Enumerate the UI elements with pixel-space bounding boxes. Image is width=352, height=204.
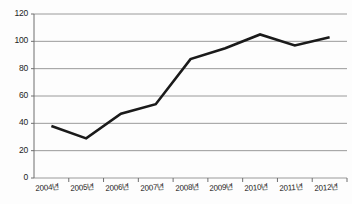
gridlines [31, 14, 347, 178]
data-series-line [51, 35, 329, 139]
y-tick-label: 100 [4, 36, 28, 45]
x-tick-label: 2005년 [70, 182, 94, 193]
x-tick-marks [69, 178, 347, 182]
y-tick-label: 120 [4, 9, 28, 18]
y-tick-label: 40 [4, 118, 28, 127]
line-chart: 020406080100120 2004년2005년2006년2007년2008… [0, 0, 352, 204]
y-tick-label: 80 [4, 64, 28, 73]
x-tick-label: 2004년 [35, 182, 59, 193]
x-tick-label: 2012년 [314, 182, 338, 193]
chart-canvas [0, 0, 352, 204]
x-tick-label: 2009년 [209, 182, 233, 193]
x-tick-label: 2006년 [105, 182, 129, 193]
x-tick-label: 2008년 [175, 182, 199, 193]
x-tick-label: 2007년 [140, 182, 164, 193]
x-tick-label: 2010년 [244, 182, 268, 193]
y-tick-label: 20 [4, 146, 28, 155]
y-tick-label: 0 [4, 173, 28, 182]
y-tick-label: 60 [4, 91, 28, 100]
x-tick-label: 2011년 [279, 182, 303, 193]
